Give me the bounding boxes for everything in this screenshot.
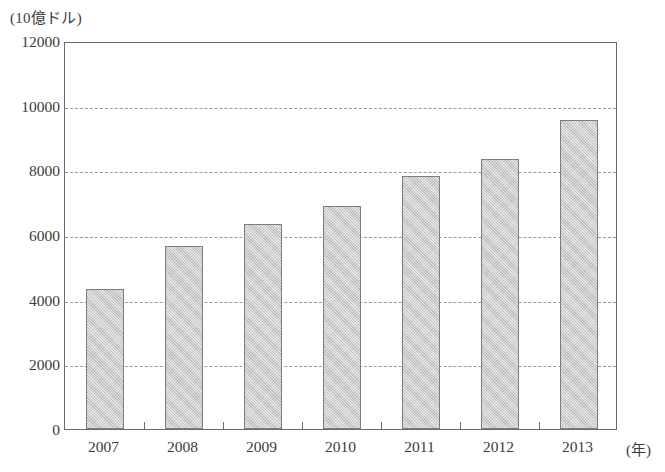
x-axis-tick-mark	[460, 422, 461, 429]
x-axis-tick-label: 2012	[483, 438, 514, 456]
bar	[323, 206, 361, 429]
y-axis-tick-label: 10000	[2, 98, 60, 116]
y-axis-tick-label: 0	[2, 421, 60, 439]
bar	[560, 120, 598, 429]
x-axis-tick-mark	[539, 422, 540, 429]
x-axis-tick-mark	[381, 422, 382, 429]
y-axis-tick-label-group: 020004000600080001000012000	[0, 0, 60, 472]
gridline	[65, 108, 616, 109]
x-axis-tick-mark	[223, 422, 224, 429]
y-axis-tick-label: 4000	[2, 292, 60, 310]
x-axis-tick-label: 2011	[404, 438, 434, 456]
bar	[244, 224, 282, 429]
y-axis-tick-label: 8000	[2, 162, 60, 180]
gridline	[65, 172, 616, 173]
x-axis-tick-label: 2013	[562, 438, 593, 456]
bar	[402, 176, 440, 429]
bar	[165, 246, 203, 429]
y-axis-tick-label: 6000	[2, 227, 60, 245]
x-axis-tick-mark	[302, 422, 303, 429]
x-axis-unit-caption: (年)	[626, 438, 651, 459]
x-axis-tick-label: 2009	[246, 438, 277, 456]
plot-area	[64, 42, 617, 430]
y-axis-tick-label: 2000	[2, 356, 60, 374]
x-axis-tick-label: 2007	[88, 438, 119, 456]
bar-chart: (10億ドル) 020004000600080001000012000 2007…	[0, 0, 665, 472]
y-axis-tick-label: 12000	[2, 33, 60, 51]
bar	[86, 289, 124, 429]
x-axis-tick-label: 2010	[325, 438, 356, 456]
bar	[481, 159, 519, 429]
x-axis-tick-mark	[144, 422, 145, 429]
x-axis-tick-label: 2008	[167, 438, 198, 456]
